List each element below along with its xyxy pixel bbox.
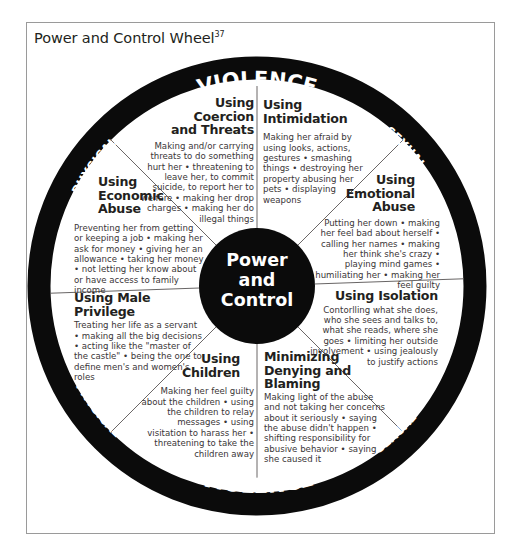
heading-line: and Threats (126, 123, 254, 137)
heading-line: Using Isolation (310, 289, 438, 303)
wedge-emotional-abuse: Using Emotional Abuse Putting her down •… (310, 173, 440, 291)
heading-line: Coercion (126, 110, 254, 124)
heading-line: Using (98, 175, 204, 189)
wedge-heading: Using Coercion and Threats (126, 96, 254, 137)
wedge-minimizing-denying-blaming: Minimizing Denying and Blaming Making li… (264, 350, 388, 465)
wedge-heading: Using Economic Abuse (98, 175, 204, 216)
wedge-body: Making light of the abuse and not taking… (264, 392, 388, 465)
wedge-heading: Using Intimidation (263, 98, 367, 125)
heading-line: Denying and (264, 364, 388, 378)
wedge-body: Putting her down • making her feel bad a… (310, 218, 440, 291)
hub-label: Power and Control (209, 250, 305, 310)
wedge-heading: Minimizing Denying and Blaming (264, 350, 388, 391)
hub-line-power: Power (209, 250, 305, 270)
heading-line: Abuse (98, 202, 204, 216)
wedge-heading: Using Emotional Abuse (310, 173, 415, 214)
wedge-heading: Using Isolation (310, 289, 438, 303)
heading-line: Intimidation (263, 112, 367, 126)
heading-line: Economic (98, 189, 204, 203)
heading-line: Using (263, 98, 367, 112)
wedge-body: Preventing her from getting or keeping a… (74, 223, 204, 296)
heading-line: Abuse (310, 200, 415, 214)
hub-line-control: Control (209, 290, 305, 310)
heading-line: Using (126, 96, 254, 110)
wedge-body: Treating her life as a servant • making … (74, 320, 202, 382)
wedge-male-privilege: Using Male Privilege Treating her life a… (74, 291, 202, 383)
heading-line: Blaming (264, 377, 388, 391)
hub-line-and: and (209, 270, 305, 290)
wedge-body: Making her feel guilty about the childre… (140, 386, 254, 459)
wedge-economic-abuse: Using Economic Abuse Preventing her from… (74, 175, 204, 296)
heading-line: Using (310, 173, 415, 187)
heading-line: Minimizing (264, 350, 388, 364)
heading-line: Emotional (310, 187, 415, 201)
